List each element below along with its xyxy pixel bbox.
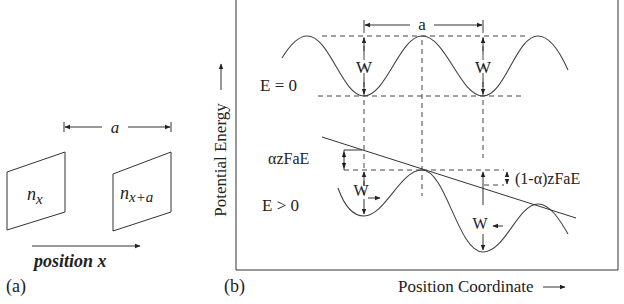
barrier-label: W [475, 58, 492, 77]
spacing-dimension-b: a [364, 15, 483, 34]
barrier-marker-top-right: W [475, 38, 492, 94]
panel-b: Potential Energy Position Coordinate (b)… [211, 0, 618, 297]
plane-right: nx+a [113, 152, 171, 231]
plane-right-label: n [120, 183, 129, 203]
svg-text:nx: nx [27, 184, 43, 207]
reverse-shift-label: (1-α)zFaE [515, 170, 580, 188]
spacing-label-b: a [418, 15, 426, 34]
position-axis-label: position x [32, 251, 107, 271]
y-axis-label-group: Potential Energy [211, 64, 230, 217]
panel-a: a nx nx+a position x (a) [6, 118, 171, 297]
plane-left-label: n [27, 184, 36, 204]
barrier-marker-top-left: W [356, 38, 373, 94]
panel-a-label: (a) [6, 276, 26, 297]
barrier-marker-bottom-right: W [472, 172, 503, 250]
diagram-canvas: a nx nx+a position x (a) Potential Energ… [0, 0, 624, 304]
y-axis-label: Potential Energy [211, 103, 230, 217]
panel-b-label: (b) [224, 276, 245, 297]
plane-right-subscript: x+a [128, 189, 153, 205]
plot-frame [236, 0, 618, 270]
spacing-dimension-a: a [64, 118, 171, 137]
barrier-label: W [356, 58, 373, 77]
forward-shift-label: αzFaE [268, 150, 309, 167]
forward-shift-marker [344, 150, 362, 170]
plane-left: nx [7, 152, 65, 230]
svg-text:nx+a: nx+a [120, 183, 153, 205]
barrier-label: W [472, 215, 488, 232]
plane-left-subscript: x [35, 191, 43, 207]
potential-curve-e0 [282, 36, 568, 96]
spacing-label: a [111, 118, 120, 137]
barrier-marker-bottom-left: W [353, 172, 380, 214]
barrier-label: W [353, 182, 369, 199]
x-axis-label: Position Coordinate [398, 277, 534, 296]
state-label-e-positive: E > 0 [262, 196, 299, 215]
state-label-e0: E = 0 [260, 76, 297, 95]
